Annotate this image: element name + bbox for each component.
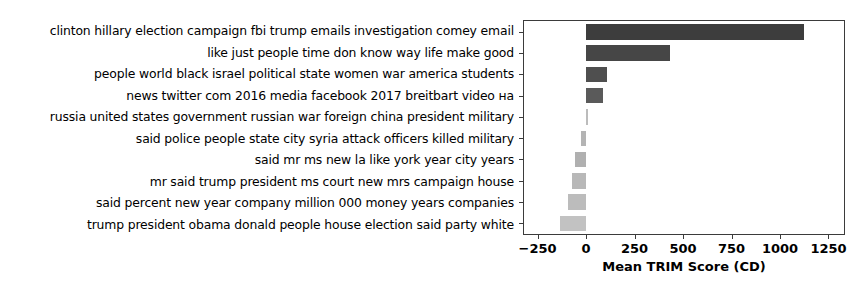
x-axis-title: Mean TRIM Score (CD) [523, 259, 845, 274]
bar [560, 216, 586, 232]
y-tick-label: clinton hillary election campaign fbi tr… [50, 24, 518, 37]
bar [575, 152, 586, 168]
y-tick-row: said police people state city syria atta… [136, 128, 518, 150]
y-tick-row: like just people time don know way life … [207, 42, 518, 64]
x-tick-label: 1000 [762, 241, 798, 256]
bar-row [524, 170, 844, 191]
y-tick-row: news twitter com 2016 media facebook 201… [126, 85, 518, 107]
x-tick-label: 0 [582, 241, 591, 256]
y-tick-row: said percent new year company million 00… [96, 192, 518, 214]
y-tick-label: mr said trump president ms court new mrs… [150, 175, 518, 188]
bars-layer [524, 21, 844, 234]
y-tick-row: said mr ms new la like york year city ye… [255, 149, 518, 171]
x-tick-mark [683, 235, 684, 239]
y-tick-label: people world black israel political stat… [94, 67, 518, 80]
bar-row [524, 21, 844, 42]
x-tick-label: 1250 [810, 241, 846, 256]
x-tick-mark [780, 235, 781, 239]
bar-row [524, 42, 844, 63]
y-tick-label: said percent new year company million 00… [96, 196, 518, 209]
y-tick-row: russia united states government russian … [50, 106, 518, 128]
y-tick-label: russia united states government russian … [50, 110, 518, 123]
x-tick-label: 500 [669, 241, 696, 256]
bar-row [524, 64, 844, 85]
bar-row [524, 191, 844, 212]
x-tick-label: −250 [519, 241, 557, 256]
bar [586, 67, 607, 83]
x-tick-mark [538, 235, 539, 239]
x-tick-mark [586, 235, 587, 239]
x-tick-mark [828, 235, 829, 239]
y-tick-label: said police people state city syria atta… [136, 132, 518, 145]
bar-row [524, 149, 844, 170]
y-tick-row: trump president obama donald people hous… [87, 214, 518, 236]
bar-row [524, 213, 844, 234]
bar [586, 24, 804, 40]
bar-row [524, 106, 844, 127]
y-tick-row: mr said trump president ms court new mrs… [150, 171, 518, 193]
y-tick-label: said mr ms new la like york year city ye… [255, 153, 518, 166]
x-tick-label: 750 [718, 241, 745, 256]
bar [586, 109, 588, 125]
y-tick-row: clinton hillary election campaign fbi tr… [50, 20, 518, 42]
bar [586, 88, 602, 104]
y-axis-tick-labels: clinton hillary election campaign fbi tr… [0, 20, 518, 235]
x-tick-mark [635, 235, 636, 239]
bar-row [524, 85, 844, 106]
x-tick-label: 250 [621, 241, 648, 256]
y-tick-label: news twitter com 2016 media facebook 201… [126, 89, 518, 102]
bar [581, 131, 586, 147]
y-tick-row: people world black israel political stat… [94, 63, 518, 85]
bar-chart-figure: clinton hillary election campaign fbi tr… [0, 0, 864, 283]
bar-row [524, 128, 844, 149]
bar [586, 45, 670, 61]
y-tick-label: trump president obama donald people hous… [87, 218, 518, 231]
x-tick-mark [732, 235, 733, 239]
bar [572, 173, 586, 189]
bar [568, 194, 586, 210]
y-tick-label: like just people time don know way life … [207, 46, 518, 59]
